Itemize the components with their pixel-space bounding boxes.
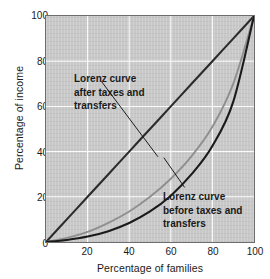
x-tick-100: 100: [240, 246, 270, 257]
x-tick-40: 40: [114, 246, 144, 257]
annotation-after-line2: after taxes and: [74, 86, 145, 100]
annotation-before-taxes: Lorenz curve before taxes and transfers: [163, 190, 242, 231]
lorenz-curve-figure: Percentage of income 100 80 60 40 20 0 2…: [0, 0, 270, 279]
x-axis-title: Percentage of families: [45, 262, 255, 274]
annotation-after-line3: transfers: [74, 99, 145, 113]
annotation-after-line1: Lorenz curve: [74, 72, 145, 86]
annotation-before-line3: transfers: [163, 217, 242, 231]
x-tick-20: 20: [72, 246, 102, 257]
annotation-before-line1: Lorenz curve: [163, 190, 242, 204]
annotation-before-line2: before taxes and: [163, 204, 242, 218]
annotation-after-taxes: Lorenz curve after taxes and transfers: [74, 72, 145, 113]
leader-line-before: [164, 158, 185, 188]
x-tick-60: 60: [156, 246, 186, 257]
x-tick-80: 80: [198, 246, 228, 257]
